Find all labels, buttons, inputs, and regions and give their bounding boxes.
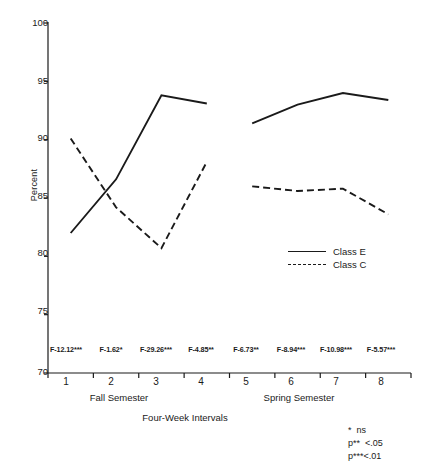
y-tick-label-95: 95 — [22, 75, 48, 86]
footnote-p01: p***<.01 — [348, 450, 383, 463]
legend-item-class-c: Class C — [288, 258, 366, 271]
group-label-fall: Fall Semester — [49, 392, 189, 403]
y-tick-label-80: 80 — [22, 247, 48, 258]
legend-label-class-c: Class C — [333, 259, 366, 270]
legend-item-class-e: Class E — [288, 245, 366, 258]
y-tick-label-75: 75 — [22, 305, 48, 316]
y-tick-label-70: 70 — [22, 366, 48, 377]
chart-figure: Percent 100 95 90 85 80 75 70 F-12.12***… — [0, 0, 425, 465]
legend-label-class-e: Class E — [333, 246, 366, 257]
chart-legend: Class E Class C — [288, 245, 366, 271]
x-tick-label-5: 5 — [231, 376, 261, 387]
legend-swatch-solid-line — [288, 247, 326, 257]
significance-footnotes: * ns p** <.05 p***<.01 — [348, 424, 383, 463]
y-tick-label-90: 90 — [22, 132, 48, 143]
x-tick-label-6: 6 — [276, 376, 306, 387]
footnote-p05: p** <.05 — [348, 437, 383, 450]
x-tick-label-4: 4 — [186, 376, 216, 387]
annotation-interval-8: F-5.57*** — [346, 345, 416, 354]
x-tick-label-7: 7 — [321, 376, 351, 387]
y-axis-title: Percent — [29, 155, 39, 215]
x-tick-label-2: 2 — [96, 376, 126, 387]
x-tick-label-3: 3 — [141, 376, 171, 387]
x-tick-label-8: 8 — [366, 376, 396, 387]
x-axis-title: Four-Week Intervals — [85, 412, 285, 423]
group-label-spring: Spring Semester — [229, 392, 369, 403]
x-tick-label-1: 1 — [51, 376, 81, 387]
footnote-ns: * ns — [348, 424, 383, 437]
y-tick-label-100: 100 — [22, 17, 48, 28]
y-tick-label-85: 85 — [22, 190, 48, 201]
legend-swatch-dashed-line — [288, 260, 326, 270]
